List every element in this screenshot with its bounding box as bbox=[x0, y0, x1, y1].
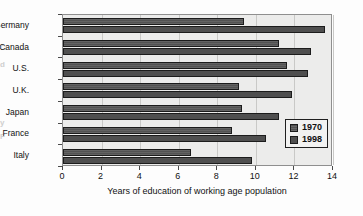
category-label-us: U.S. bbox=[12, 63, 29, 73]
bar[interactable] bbox=[63, 135, 266, 142]
bar[interactable] bbox=[63, 18, 244, 25]
edge-artifact-glyph: y bbox=[0, 118, 4, 127]
bar[interactable] bbox=[63, 91, 292, 98]
x-tick bbox=[293, 166, 294, 170]
legend-swatch-1998 bbox=[290, 136, 298, 144]
bar[interactable] bbox=[63, 70, 308, 77]
gridline bbox=[333, 15, 334, 165]
y-tick bbox=[58, 36, 62, 37]
y-tick bbox=[58, 101, 62, 102]
x-tick-label: 4 bbox=[137, 171, 142, 181]
bar[interactable] bbox=[63, 149, 191, 156]
x-tick bbox=[178, 166, 179, 170]
bar[interactable] bbox=[63, 157, 252, 164]
x-tick-label: 12 bbox=[288, 171, 298, 181]
category-label-italy: Italy bbox=[13, 150, 29, 160]
bar[interactable] bbox=[63, 48, 311, 55]
bar-group bbox=[63, 58, 331, 80]
x-tick bbox=[216, 166, 217, 170]
category-label-germany: Germany bbox=[0, 20, 29, 30]
bar[interactable] bbox=[63, 26, 325, 33]
bar-group bbox=[63, 145, 331, 167]
y-tick bbox=[58, 123, 62, 124]
bar[interactable] bbox=[63, 105, 242, 112]
category-label-japan: Japan bbox=[6, 107, 29, 117]
y-tick bbox=[58, 79, 62, 80]
x-tick-label: 8 bbox=[214, 171, 219, 181]
y-tick bbox=[58, 144, 62, 145]
x-tick-label: 6 bbox=[175, 171, 180, 181]
y-tick bbox=[58, 166, 62, 167]
bar-group bbox=[63, 37, 331, 59]
category-label-uk: U.K. bbox=[12, 85, 29, 95]
legend-label-1998: 1998 bbox=[302, 135, 322, 144]
y-tick bbox=[58, 57, 62, 58]
bar-group bbox=[63, 80, 331, 102]
x-tick-label: 0 bbox=[59, 171, 64, 181]
x-tick-label: 14 bbox=[327, 171, 337, 181]
bar[interactable] bbox=[63, 83, 239, 90]
chart-legend[interactable]: 1970 1998 bbox=[285, 119, 328, 148]
x-tick bbox=[62, 166, 63, 170]
bar-group bbox=[63, 15, 331, 37]
bar[interactable] bbox=[63, 40, 279, 47]
x-tick bbox=[139, 166, 140, 170]
chart-figure: CdyF 1970 1998 02468101214 GermanyCanada… bbox=[0, 0, 363, 216]
plot-area: 1970 1998 bbox=[62, 14, 332, 166]
x-tick bbox=[101, 166, 102, 170]
legend-item-1998[interactable]: 1998 bbox=[290, 135, 322, 144]
legend-label-1970: 1970 bbox=[302, 123, 322, 132]
x-tick bbox=[255, 166, 256, 170]
legend-swatch-1970 bbox=[290, 124, 298, 132]
legend-item-1970[interactable]: 1970 bbox=[290, 123, 322, 132]
y-tick bbox=[58, 14, 62, 15]
bar[interactable] bbox=[63, 62, 287, 69]
x-tick-label: 10 bbox=[250, 171, 260, 181]
x-tick bbox=[332, 166, 333, 170]
x-axis-title: Years of education of working age popula… bbox=[62, 186, 332, 196]
edge-artifact-glyph: d bbox=[0, 60, 5, 69]
bar[interactable] bbox=[63, 113, 279, 120]
category-label-france: France bbox=[3, 128, 29, 138]
bar[interactable] bbox=[63, 127, 232, 134]
category-label-canada: Canada bbox=[0, 42, 29, 52]
x-tick-label: 2 bbox=[98, 171, 103, 181]
